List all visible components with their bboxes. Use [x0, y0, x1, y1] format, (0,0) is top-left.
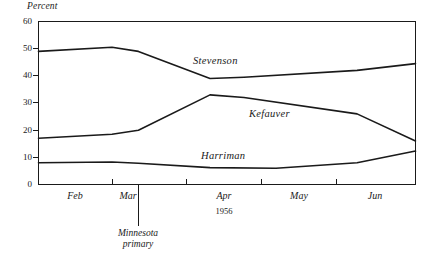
- y-tick-marks: [33, 49, 38, 158]
- annotation-line-1: Minnesota: [118, 228, 158, 238]
- series-label-kefauver: Kefauver: [249, 108, 290, 119]
- x-tick-label-apr: Apr: [217, 190, 232, 201]
- series-line-kefauver: [39, 95, 416, 141]
- x-tick-label-feb: Feb: [67, 190, 83, 201]
- x-tick-marks: [113, 179, 337, 184]
- chart-figure: Percent 60 50 40 30 20 10 0 Ste: [0, 0, 423, 260]
- x-tick-label-may: May: [290, 190, 308, 201]
- minnesota-primary-annotation: Minnesota primary: [118, 228, 158, 250]
- series-label-stevenson: Stevenson: [193, 55, 238, 66]
- plot-canvas: [0, 0, 423, 260]
- x-axis-year-label: 1956: [216, 206, 233, 216]
- series-label-harriman: Harriman: [201, 150, 245, 161]
- x-tick-label-mar: Mar: [119, 190, 136, 201]
- x-tick-label-jun: Jun: [368, 190, 382, 201]
- annotation-line-2: primary: [123, 239, 154, 249]
